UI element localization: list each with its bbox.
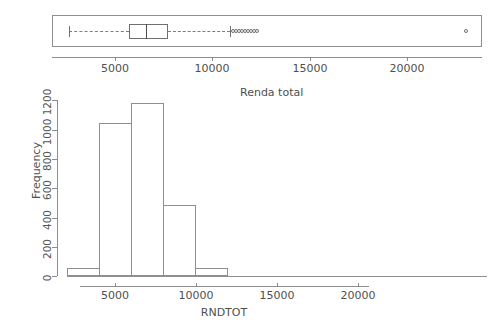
boxplot-axis-line — [52, 57, 482, 58]
boxplot-axis-tick — [407, 57, 408, 61]
boxplot-panel: 5000 10000 15000 20000 — [0, 0, 499, 78]
histogram-bar — [195, 268, 228, 276]
x-axis-tick — [196, 283, 197, 287]
y-axis-label: 200 — [41, 239, 53, 259]
y-axis-line — [57, 100, 58, 276]
chart-title: Renda total — [240, 86, 303, 99]
boxplot-median-line — [146, 24, 147, 39]
y-axis-tick — [52, 100, 57, 101]
boxplot-axis-label: 5000 — [101, 62, 129, 75]
x-axis-tick — [115, 283, 116, 287]
y-axis-label: 1200 — [41, 89, 53, 116]
boxplot-whisker-cap-left — [69, 26, 70, 37]
boxplot-axis-tick — [212, 57, 213, 61]
histogram-baseline — [67, 276, 487, 277]
boxplot-whisker-right — [168, 31, 230, 32]
y-axis-title: Frequency — [30, 142, 43, 199]
x-axis-title: RNDTOT — [201, 306, 247, 319]
boxplot-box — [129, 24, 168, 39]
histogram-bar — [131, 103, 164, 276]
x-axis-label: 10000 — [179, 289, 214, 302]
boxplot-whisker-left — [69, 31, 129, 32]
boxplot-axis-tick — [115, 57, 116, 61]
y-axis-label: 0 — [41, 275, 53, 282]
histogram-bar — [67, 268, 100, 276]
y-axis-tick — [52, 276, 57, 277]
histogram-panel: Renda total 0 200 400 600 800 1000 1200 … — [0, 78, 499, 332]
x-axis-label: 20000 — [341, 289, 376, 302]
x-axis-line — [80, 286, 369, 287]
x-axis-label: 15000 — [260, 289, 295, 302]
y-axis-tick — [52, 130, 57, 131]
boxplot-axis-tick — [310, 57, 311, 61]
boxplot-axis-label: 15000 — [293, 62, 328, 75]
boxplot-axis-label: 10000 — [195, 62, 230, 75]
x-axis-tick — [277, 283, 278, 287]
histogram-bar — [163, 205, 196, 276]
x-axis-tick — [358, 283, 359, 287]
y-axis-label: 400 — [41, 210, 53, 230]
histogram-bar — [99, 123, 132, 276]
x-axis-label: 5000 — [101, 289, 129, 302]
boxplot-axis-label: 20000 — [390, 62, 425, 75]
boxplot-outlier — [255, 29, 259, 33]
boxplot-outlier-far — [464, 29, 468, 33]
